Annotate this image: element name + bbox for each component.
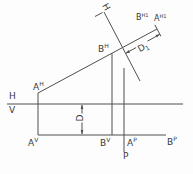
dimension-d1-arrow-right <box>156 34 160 37</box>
h1-fold-line <box>104 12 140 81</box>
dimension-d-label: D <box>75 114 85 123</box>
fold-label-tick <box>95 13 103 17</box>
geometry-diagram: H BH1 AH1 D1 BH AH H V D AV BV AP BP P <box>0 0 193 174</box>
point-view-tick <box>155 25 161 37</box>
plane-label-v: V <box>9 105 15 115</box>
dimension-d-arrow-down <box>81 130 84 135</box>
point-label-a-v: AV <box>28 137 38 148</box>
point-label-b-h: BH <box>98 43 109 54</box>
point-label-a-h: AH <box>33 81 44 92</box>
point-label-b-h1: BH1 <box>136 12 148 23</box>
h-view-line-ab <box>38 29 157 93</box>
point-label-b-p: BP <box>167 136 177 147</box>
point-label-a-h1: AH1 <box>154 13 166 24</box>
dimension-d-arrow-up <box>81 105 84 110</box>
point-label-b-v: BV <box>100 137 110 148</box>
point-label-a-p: AP <box>127 137 137 148</box>
plane-label-p: P <box>123 151 128 161</box>
dimension-d1-arrow-left <box>126 50 130 53</box>
plane-label-h: H <box>9 91 16 101</box>
